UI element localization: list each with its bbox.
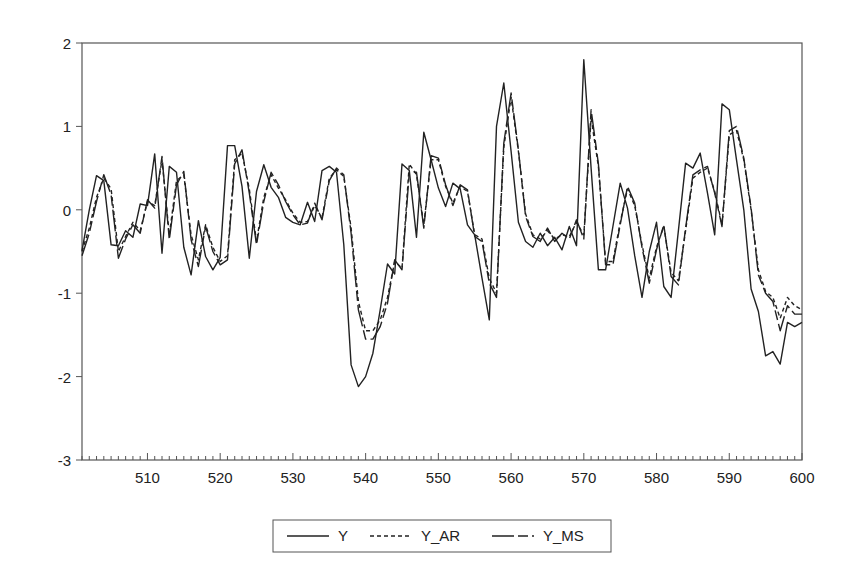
legend-label-y-ms: Y_MS — [543, 527, 584, 544]
y-tick-label: 2 — [63, 35, 71, 52]
plot-frame — [82, 43, 802, 460]
y-axis: -3-2-1012 — [58, 35, 82, 469]
x-tick-label: 530 — [280, 469, 305, 486]
y-tick-label: 1 — [63, 118, 71, 135]
y-tick-label: -1 — [58, 285, 71, 302]
x-tick-label: 560 — [499, 469, 524, 486]
series-y-ms — [82, 93, 802, 339]
x-axis: 510520530540550560570580590600 — [82, 453, 815, 486]
x-tick-label: 600 — [789, 469, 814, 486]
y-tick-label: -3 — [58, 452, 71, 469]
legend: Y Y_AR Y_MS — [273, 520, 611, 552]
x-tick-label: 570 — [571, 469, 596, 486]
y-tick-label: -2 — [58, 369, 71, 386]
legend-label-y-ar: Y_AR — [421, 527, 460, 544]
x-tick-label: 590 — [717, 469, 742, 486]
series-y-ar — [82, 97, 802, 331]
line-chart: -3-2-1012 510520530540550560570580590600… — [0, 0, 859, 585]
x-tick-label: 540 — [353, 469, 378, 486]
x-tick-label: 510 — [135, 469, 160, 486]
legend-label-y: Y — [338, 527, 348, 544]
y-tick-label: 0 — [63, 202, 71, 219]
series-layer — [82, 60, 802, 387]
x-tick-label: 580 — [644, 469, 669, 486]
x-tick-label: 550 — [426, 469, 451, 486]
x-tick-label: 520 — [208, 469, 233, 486]
